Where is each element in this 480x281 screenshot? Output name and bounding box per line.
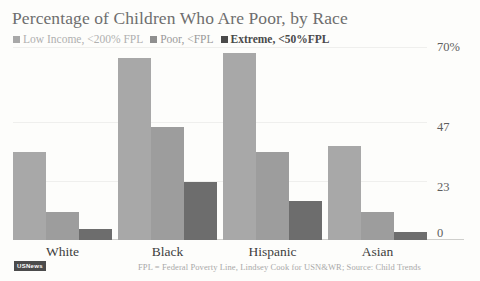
x-axis-label-white: White (46, 244, 79, 260)
legend-swatch-icon (150, 36, 157, 43)
bar-groups (13, 47, 427, 240)
chart-annotation: FPL = Federal Poverty Line, Lindsey Cook… (138, 262, 421, 272)
bar-group-hispanic (223, 47, 322, 240)
legend-item-poor[interactable]: Poor, <FPL (150, 33, 213, 45)
legend-label: Low Income, <200% FPL (23, 33, 143, 45)
bar-hispanic-series-2[interactable] (289, 201, 322, 240)
bar-hispanic-series-1[interactable] (256, 152, 289, 240)
y-axis-tick-47: 47 (437, 120, 450, 135)
bar-hispanic-series-0[interactable] (223, 53, 256, 241)
bar-white-series-2[interactable] (79, 229, 112, 240)
chart-figure: Percentage of Children Who Are Poor, by … (0, 0, 480, 281)
page-title: Percentage of Children Who Are Poor, by … (12, 8, 348, 29)
y-axis-tick-23: 23 (437, 180, 450, 195)
bar-asian-series-1[interactable] (361, 212, 394, 240)
x-axis-label-asian: Asian (362, 244, 394, 260)
legend-swatch-icon (13, 36, 20, 43)
legend-item-extreme[interactable]: Extreme, <50%FPL (221, 33, 330, 45)
legend-label: Extreme, <50%FPL (231, 33, 330, 45)
plot-area (13, 47, 427, 240)
x-axis-labels: WhiteBlackHispanicAsian (13, 244, 427, 262)
y-axis-tick-70: 70% (437, 40, 460, 55)
legend-swatch-icon (221, 36, 228, 43)
bar-group-white (13, 47, 112, 240)
bar-white-series-0[interactable] (13, 152, 46, 240)
bar-black-series-1[interactable] (151, 127, 184, 240)
chart-legend: Low Income, <200% FPL Poor, <FPL Extreme… (13, 33, 330, 45)
bar-white-series-1[interactable] (46, 212, 79, 240)
x-axis-label-black: Black (152, 244, 184, 260)
bar-black-series-2[interactable] (184, 182, 217, 240)
usnews-logo-badge: USNews (14, 261, 46, 271)
bar-asian-series-2[interactable] (394, 232, 427, 240)
bar-asian-series-0[interactable] (328, 146, 361, 240)
bar-group-asian (328, 47, 427, 240)
x-axis-label-hispanic: Hispanic (249, 244, 297, 260)
legend-item-low-income[interactable]: Low Income, <200% FPL (13, 33, 143, 45)
legend-label: Poor, <FPL (160, 33, 213, 45)
bar-group-black (118, 47, 217, 240)
bar-black-series-0[interactable] (118, 58, 151, 240)
